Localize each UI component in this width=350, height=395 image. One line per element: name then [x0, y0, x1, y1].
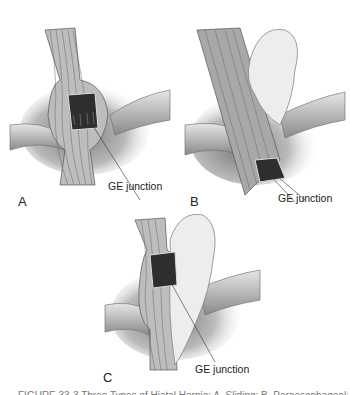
panel-a-ge-junction-callout: GE junction	[108, 180, 162, 192]
panel-c-illustration	[105, 210, 265, 370]
panel-b-label: B	[190, 194, 199, 209]
panel-a-illustration	[10, 20, 170, 180]
panel-c-ge-junction-callout: GE junction	[195, 363, 249, 375]
sliding-hernia-drawing	[10, 20, 170, 180]
panel-b-illustration	[185, 20, 345, 195]
mixed-hernia-drawing	[105, 210, 265, 370]
panel-c-label: C	[103, 370, 112, 385]
panel-a-label: A	[18, 194, 27, 209]
paraesophageal-hernia-drawing	[185, 20, 345, 195]
figure-caption: FIGURE 33-3 Three Types of Hiatal Hernia…	[18, 386, 348, 395]
panel-b-ge-junction-callout: GE junction	[278, 192, 332, 204]
